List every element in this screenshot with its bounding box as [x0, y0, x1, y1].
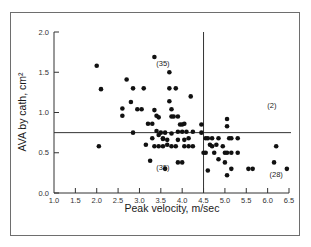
- data-point: [210, 144, 215, 149]
- x-axis-title: Peak velocity, m/sec: [125, 202, 220, 214]
- data-point: [182, 144, 187, 149]
- data-point: [176, 138, 181, 143]
- data-point: [139, 107, 144, 112]
- data-point: [156, 144, 161, 149]
- data-point: [199, 130, 204, 135]
- data-point: [173, 86, 178, 91]
- data-point: [203, 150, 208, 155]
- data-point: [99, 87, 104, 92]
- data-point: [156, 133, 161, 138]
- data-point: [144, 142, 149, 147]
- data-point: [124, 77, 129, 82]
- data-point: [163, 130, 168, 135]
- data-point: [167, 86, 172, 91]
- data-point: [188, 94, 193, 99]
- data-point: [120, 113, 125, 118]
- data-point: [165, 142, 170, 147]
- data-point: [191, 144, 196, 149]
- data-point: [229, 150, 234, 155]
- x-tick-label: 2.5: [113, 196, 123, 205]
- count-annotation: (35): [156, 59, 170, 68]
- count-annotation: (35): [156, 163, 170, 172]
- data-point: [225, 117, 230, 122]
- data-point: [274, 144, 279, 149]
- data-point: [235, 136, 240, 141]
- data-point: [176, 114, 181, 119]
- data-point: [199, 122, 204, 127]
- data-point: [148, 159, 153, 164]
- data-point: [154, 129, 159, 134]
- data-point: [223, 160, 228, 165]
- y-tick-label: 1.0: [39, 108, 49, 117]
- data-point: [171, 114, 176, 119]
- data-point: [212, 150, 217, 155]
- data-point: [141, 86, 146, 91]
- data-point: [131, 86, 136, 91]
- data-point: [165, 138, 170, 143]
- data-point: [173, 144, 178, 149]
- x-tick-label: 1.5: [70, 196, 80, 205]
- data-point: [120, 106, 125, 111]
- data-point: [182, 121, 187, 126]
- data-point: [131, 130, 136, 135]
- data-point: [156, 115, 161, 120]
- x-tick-label: 1.0: [49, 196, 59, 205]
- data-point: [225, 173, 230, 178]
- y-axis-title: AVA by cath, cm²: [16, 72, 28, 151]
- data-points: [94, 55, 289, 178]
- count-annotation: (2): [267, 101, 277, 110]
- data-point: [216, 136, 221, 141]
- data-point: [150, 121, 155, 126]
- data-point: [186, 136, 191, 141]
- data-point: [214, 142, 219, 147]
- data-point: [186, 144, 191, 149]
- data-point: [184, 130, 189, 135]
- y-tick-label: 1.5: [39, 68, 49, 77]
- data-point: [229, 136, 234, 141]
- data-point: [285, 167, 290, 172]
- data-point: [176, 130, 181, 135]
- data-point: [94, 64, 99, 69]
- data-point: [235, 150, 240, 155]
- x-tick-label: 6.5: [284, 196, 294, 205]
- data-point: [152, 144, 157, 149]
- data-point: [206, 136, 211, 141]
- data-point: [182, 138, 187, 143]
- data-point: [167, 70, 172, 75]
- x-tick-label: 2.0: [92, 196, 102, 205]
- data-point: [161, 137, 166, 142]
- data-point: [169, 107, 174, 112]
- y-tick-label: 2.0: [39, 28, 49, 37]
- reference-lines: [54, 32, 291, 193]
- x-tick-label: 5.0: [220, 196, 230, 205]
- count-annotation: (28): [270, 170, 284, 179]
- data-point: [146, 121, 151, 126]
- data-point: [167, 99, 172, 104]
- data-point: [229, 167, 234, 172]
- data-point: [272, 160, 277, 165]
- y-tick-label: 0.5: [39, 148, 49, 157]
- y-tick-label: 0.0: [39, 189, 49, 198]
- data-point: [225, 150, 230, 155]
- data-point: [210, 136, 215, 141]
- data-point: [176, 160, 181, 165]
- axes: 0.00.51.01.52.01.01.52.02.53.03.54.04.55…: [39, 28, 295, 206]
- data-point: [225, 124, 230, 129]
- data-point: [152, 108, 157, 113]
- data-point: [216, 157, 221, 162]
- x-tick-label: 6.0: [262, 196, 272, 205]
- scatter-chart: 0.00.51.01.52.01.01.52.02.53.03.54.04.55…: [0, 0, 311, 247]
- data-point: [180, 130, 185, 135]
- data-point: [150, 136, 155, 141]
- data-point: [97, 144, 102, 149]
- data-point: [191, 130, 196, 135]
- data-point: [206, 168, 211, 173]
- data-point: [169, 131, 174, 136]
- data-point: [250, 167, 255, 172]
- x-tick-label: 5.5: [241, 196, 251, 205]
- data-point: [246, 167, 251, 172]
- data-point: [161, 144, 166, 149]
- data-point: [220, 144, 225, 149]
- data-point: [169, 144, 174, 149]
- data-point: [129, 100, 134, 105]
